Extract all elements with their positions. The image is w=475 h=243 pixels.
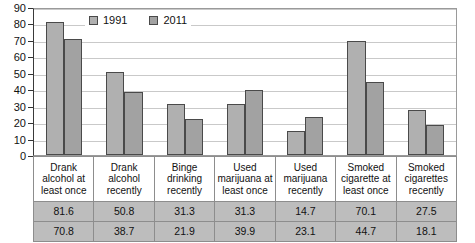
legend-swatch-icon-1991 <box>89 16 98 25</box>
table-header-row: Drank alcohol at least onceDrank alcohol… <box>34 157 457 202</box>
legend-label-2011: 2011 <box>163 15 187 26</box>
bars-layer <box>34 9 456 155</box>
bar-group <box>34 9 94 155</box>
bar-2011[interactable] <box>64 39 82 155</box>
y-axis-tick-label: 40 <box>14 84 26 96</box>
y-axis-tick-label: 10 <box>14 134 26 146</box>
bar-chart-with-data-table: 9080706050403020100 1991 2011 Drank alco… <box>0 0 475 243</box>
table-value-cell: 50.8 <box>94 202 154 222</box>
bar-1991[interactable] <box>167 104 185 155</box>
table-row: 81.650.831.331.314.770.127.5 <box>34 202 457 222</box>
table-header-cell: Drank alcohol at least once <box>34 157 94 202</box>
y-axis-tick-label: 60 <box>14 51 26 63</box>
bar-2011[interactable] <box>245 90 263 155</box>
plot-area <box>33 8 457 156</box>
table-value-cell: 38.7 <box>94 222 154 242</box>
bar-1991[interactable] <box>46 22 64 155</box>
legend-label-1991: 1991 <box>103 15 127 26</box>
bar-2011[interactable] <box>124 92 142 155</box>
legend-swatch-icon-2011 <box>149 16 158 25</box>
table-body: Drank alcohol at least onceDrank alcohol… <box>34 157 457 242</box>
table-header-cell: Used marijuana recently <box>275 157 335 202</box>
y-axis-tick-label: 30 <box>14 101 26 113</box>
table-header-cell: Drank alcohol recently <box>94 157 154 202</box>
y-axis-tick-label: 0 <box>20 150 26 162</box>
table-value-cell: 27.5 <box>396 202 456 222</box>
bar-group <box>94 9 154 155</box>
table-value-cell: 39.9 <box>215 222 275 242</box>
bar-group <box>215 9 275 155</box>
bar-group <box>275 9 335 155</box>
y-axis-tick-label: 80 <box>14 18 26 30</box>
y-axis-tick-label: 90 <box>14 2 26 14</box>
table-value-cell: 31.3 <box>215 202 275 222</box>
chart-legend: 1991 2011 <box>85 13 191 28</box>
bar-2011[interactable] <box>366 82 384 155</box>
table-value-cell: 44.7 <box>336 222 396 242</box>
table-header-cell: Used marijuana at least once <box>215 157 275 202</box>
table-header-cell: Smoked cigarettes recently <box>396 157 456 202</box>
bar-1991[interactable] <box>347 41 365 155</box>
table-value-cell: 81.6 <box>34 202 94 222</box>
table-header-cell: Smoked cigarette at least once <box>336 157 396 202</box>
y-axis-tick-label: 50 <box>14 68 26 80</box>
legend-entry-2011[interactable]: 2011 <box>149 15 187 26</box>
bar-group <box>396 9 456 155</box>
bar-2011[interactable] <box>185 119 203 155</box>
table-value-cell: 18.1 <box>396 222 456 242</box>
table-header-cell: Binge drinking recently <box>154 157 214 202</box>
bar-1991[interactable] <box>106 72 124 155</box>
bar-1991[interactable] <box>227 104 245 155</box>
table-value-cell: 21.9 <box>154 222 214 242</box>
legend-entry-1991[interactable]: 1991 <box>89 15 127 26</box>
table-value-cell: 14.7 <box>275 202 335 222</box>
y-axis-tick-label: 70 <box>14 35 26 47</box>
bar-2011[interactable] <box>305 117 323 155</box>
bar-1991[interactable] <box>287 131 305 155</box>
bar-2011[interactable] <box>426 125 444 155</box>
table-value-cell: 70.1 <box>336 202 396 222</box>
table-value-cell: 31.3 <box>154 202 214 222</box>
table-value-cell: 70.8 <box>34 222 94 242</box>
y-axis: 9080706050403020100 <box>0 8 33 156</box>
table-row: 70.838.721.939.923.144.718.1 <box>34 222 457 242</box>
bar-group <box>155 9 215 155</box>
bar-1991[interactable] <box>408 110 426 155</box>
bar-group <box>335 9 395 155</box>
table-value-cell: 23.1 <box>275 222 335 242</box>
data-table: Drank alcohol at least onceDrank alcohol… <box>33 156 457 242</box>
y-axis-tick-label: 20 <box>14 117 26 129</box>
